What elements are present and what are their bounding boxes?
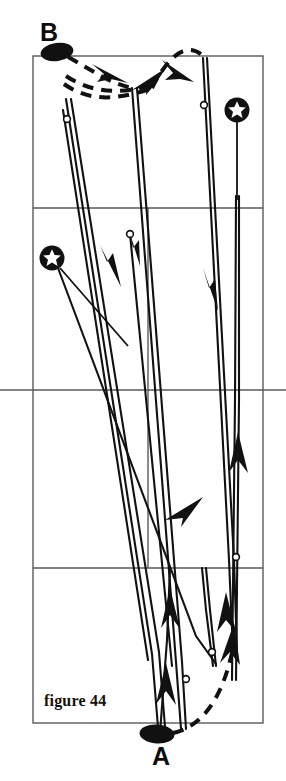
arrowhead-mid-right — [203, 268, 218, 311]
arrowhead-bottom-3 — [156, 663, 176, 705]
path-left-long-a — [63, 110, 148, 660]
waypoint-6 — [183, 676, 190, 683]
point-label-a: A — [152, 744, 170, 769]
star-marker-left — [40, 246, 65, 271]
waypoint-3 — [201, 102, 208, 109]
arc-top-left — [68, 57, 133, 88]
figure-canvas: B A figure 44 — [0, 0, 286, 781]
star-marker-right — [225, 98, 250, 123]
figure-caption: figure 44 — [44, 692, 106, 710]
waypoint-1 — [64, 116, 71, 123]
arrowhead-mid-left — [100, 245, 121, 287]
waypoint-5 — [209, 649, 216, 656]
path-b-to-a-inner-left — [71, 99, 165, 727]
path-star-left-to-bottom — [58, 268, 216, 664]
point-label-b: B — [40, 20, 58, 45]
diagram-svg — [0, 0, 286, 781]
waypoint-2 — [127, 231, 134, 238]
waypoint-4 — [233, 554, 240, 561]
path-right-descending — [203, 58, 233, 652]
